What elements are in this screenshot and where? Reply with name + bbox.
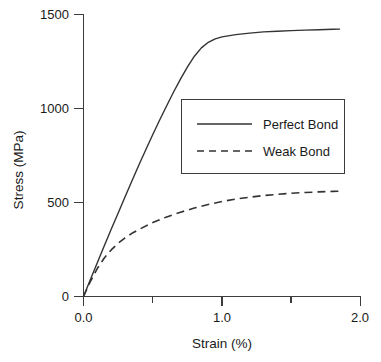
- y-tick-label-0: 0: [62, 289, 69, 304]
- y-tick-label-500: 500: [47, 195, 69, 210]
- series-line-weak-bond: [84, 191, 340, 296]
- x-tick-label-0-0: 0.0: [74, 310, 92, 325]
- legend-box: [182, 100, 345, 174]
- x-axis-tick-labels: 0.0 1.0 2.0: [74, 310, 369, 325]
- chart-legend: Perfect Bond Weak Bond: [182, 100, 345, 174]
- x-tick-label-1-0: 1.0: [213, 310, 231, 325]
- y-axis-tick-labels: 1500 1000 500 0: [40, 7, 69, 304]
- y-axis-ticks: [74, 15, 84, 297]
- y-axis-title: Stress (MPa): [11, 131, 26, 210]
- x-axis-ticks: [84, 297, 361, 307]
- x-tick-label-2-0: 2.0: [351, 310, 369, 325]
- y-tick-label-1500: 1500: [40, 7, 69, 22]
- legend-label-perfect-bond: Perfect Bond: [263, 117, 338, 132]
- y-tick-label-1000: 1000: [40, 101, 69, 116]
- chart-canvas: 1500 1000 500 0 0.0 1.0 2.0 Strain (%) S…: [0, 0, 381, 362]
- legend-label-weak-bond: Weak Bond: [263, 144, 330, 159]
- stress-strain-chart: 1500 1000 500 0 0.0 1.0 2.0 Strain (%) S…: [0, 0, 381, 362]
- x-axis-title: Strain (%): [192, 336, 252, 351]
